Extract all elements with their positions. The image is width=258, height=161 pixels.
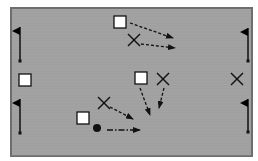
playing-field <box>11 8 252 156</box>
player-square-top-icon <box>114 16 126 28</box>
player-square-bottom-icon <box>77 112 89 124</box>
player-square-left-icon <box>19 74 31 86</box>
player-square-center-icon <box>135 72 147 84</box>
ball <box>93 124 101 132</box>
ball-icon <box>93 124 101 132</box>
drill-diagram <box>0 0 258 161</box>
